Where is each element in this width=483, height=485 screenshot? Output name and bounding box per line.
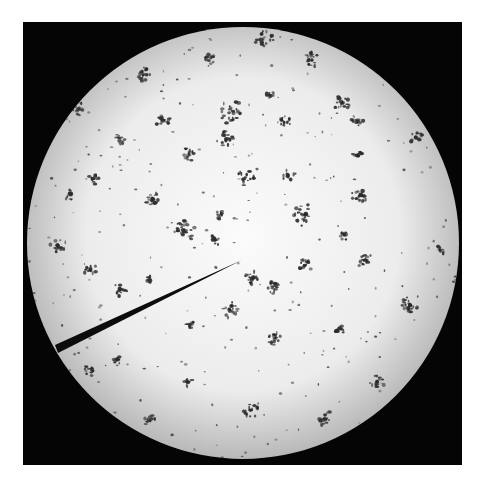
illuminated-field <box>27 27 459 459</box>
microscope-field-image <box>0 0 483 485</box>
